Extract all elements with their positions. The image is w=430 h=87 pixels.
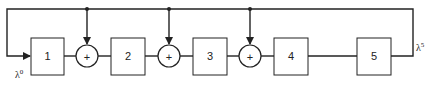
adder-3: + <box>239 45 261 67</box>
block-2-label: 2 <box>125 50 131 62</box>
block-3-label: 3 <box>207 50 213 62</box>
block-1: 1 <box>31 38 64 75</box>
block-4-label: 4 <box>288 50 294 62</box>
output-label: λ5 <box>416 41 425 53</box>
plus-icon: + <box>84 51 90 63</box>
block-3: 3 <box>193 38 227 75</box>
block-2: 2 <box>111 38 145 75</box>
adder-1: + <box>76 45 98 67</box>
plus-icon: + <box>166 51 172 63</box>
block-5: 5 <box>357 38 391 75</box>
block-4: 4 <box>274 38 308 75</box>
plus-icon: + <box>247 51 253 63</box>
feedback-block-diagram: 1 2 3 4 5 + + + λ0 λ5 <box>0 0 430 87</box>
block-1-label: 1 <box>44 50 50 62</box>
adder-2: + <box>158 45 180 67</box>
block-5-label: 5 <box>371 50 377 62</box>
input-label: λ0 <box>15 68 24 80</box>
